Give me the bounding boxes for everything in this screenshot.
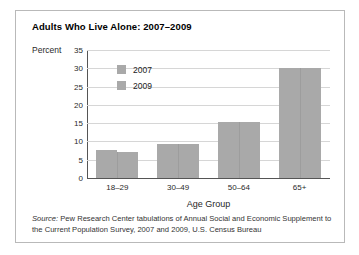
x-tick-label: 30–49 bbox=[148, 183, 208, 192]
bar-group bbox=[218, 50, 260, 178]
figure-frame: Adults Who Live Alone: 2007–2009 Percent… bbox=[15, 10, 345, 243]
x-tick-label: 18–29 bbox=[87, 183, 147, 192]
chart-legend: 20072009 bbox=[117, 63, 152, 95]
x-tick-label: 65+ bbox=[270, 183, 330, 192]
bar-group bbox=[279, 50, 321, 178]
y-tick-label-35: 35 bbox=[74, 46, 83, 55]
bar bbox=[178, 144, 199, 178]
y-tick-label-5: 5 bbox=[79, 155, 83, 164]
legend-label: 2007 bbox=[133, 65, 152, 75]
y-tick-label-10: 10 bbox=[74, 137, 83, 146]
bar bbox=[117, 152, 138, 178]
bar bbox=[300, 68, 321, 178]
y-tick-label-20: 20 bbox=[74, 100, 83, 109]
y-tick-label-0: 0 bbox=[79, 174, 83, 183]
legend-swatch-icon bbox=[117, 65, 126, 74]
bar bbox=[218, 122, 239, 178]
legend-item: 2007 bbox=[117, 63, 152, 76]
y-tick-label-30: 30 bbox=[74, 64, 83, 73]
legend-label: 2009 bbox=[133, 81, 152, 91]
source-label: Source: bbox=[32, 214, 58, 223]
bar bbox=[279, 68, 300, 178]
bar bbox=[157, 144, 178, 178]
x-axis-title: Age Group bbox=[87, 199, 330, 209]
gridline-0 bbox=[87, 178, 330, 179]
y-axis-tick-labels: 05101520253035 bbox=[54, 50, 83, 178]
y-tick-label-15: 15 bbox=[74, 119, 83, 128]
y-tick-label-25: 25 bbox=[74, 82, 83, 91]
legend-item: 2009 bbox=[117, 79, 152, 92]
legend-swatch-icon bbox=[117, 81, 126, 90]
bar bbox=[239, 122, 260, 178]
bar-group bbox=[157, 50, 199, 178]
source-body: Pew Research Center tabulations of Annua… bbox=[32, 214, 331, 234]
x-tick-label: 50–64 bbox=[209, 183, 269, 192]
chart-title: Adults Who Live Alone: 2007–2009 bbox=[32, 21, 192, 32]
source-note: Source: Pew Research Center tabulations … bbox=[32, 214, 332, 235]
bar bbox=[96, 150, 117, 178]
